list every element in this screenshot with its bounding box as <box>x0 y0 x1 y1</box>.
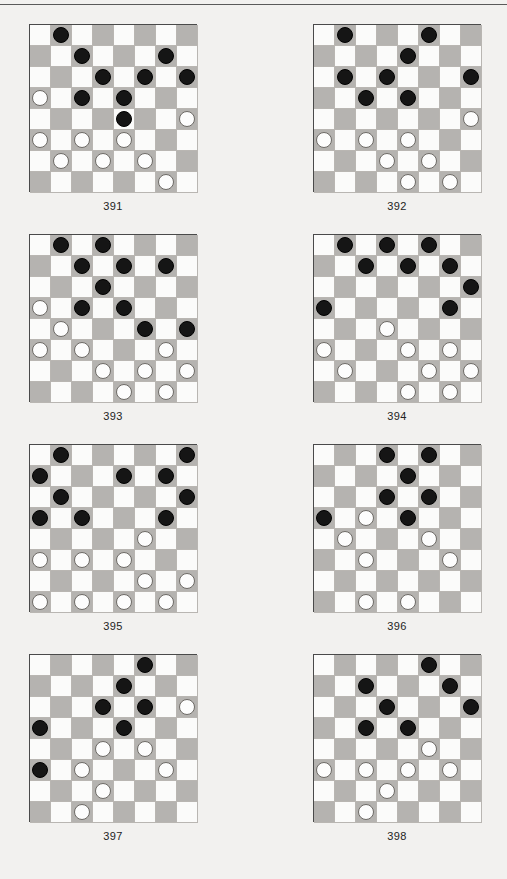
square-r7-c1[interactable] <box>335 172 356 193</box>
square-r3-c4[interactable] <box>114 298 135 319</box>
square-r6-c0[interactable] <box>314 151 335 172</box>
square-r6-c7[interactable] <box>177 571 198 592</box>
black-piece[interactable] <box>400 90 416 106</box>
black-piece[interactable] <box>116 111 132 127</box>
square-r5-c6[interactable] <box>156 130 177 151</box>
square-r5-c5[interactable] <box>419 760 440 781</box>
square-r1-c3[interactable] <box>93 256 114 277</box>
square-r7-c0[interactable] <box>30 802 51 823</box>
square-r3-c7[interactable] <box>177 298 198 319</box>
square-r7-c5[interactable] <box>419 802 440 823</box>
square-r4-c7[interactable] <box>177 319 198 340</box>
square-r4-c0[interactable] <box>314 319 335 340</box>
black-piece[interactable] <box>95 279 111 295</box>
square-r3-c1[interactable] <box>51 718 72 739</box>
square-r5-c7[interactable] <box>177 340 198 361</box>
square-r5-c0[interactable] <box>314 130 335 151</box>
square-r0-c2[interactable] <box>72 655 93 676</box>
square-r2-c4[interactable] <box>114 277 135 298</box>
square-r2-c0[interactable] <box>30 487 51 508</box>
square-r0-c4[interactable] <box>398 235 419 256</box>
square-r5-c0[interactable] <box>30 760 51 781</box>
square-r1-c3[interactable] <box>377 466 398 487</box>
white-piece[interactable] <box>400 594 416 610</box>
square-r2-c3[interactable] <box>93 277 114 298</box>
square-r6-c4[interactable] <box>114 361 135 382</box>
white-piece[interactable] <box>74 132 90 148</box>
black-piece[interactable] <box>74 258 90 274</box>
white-piece[interactable] <box>116 384 132 400</box>
square-r2-c4[interactable] <box>114 487 135 508</box>
square-r1-c6[interactable] <box>156 676 177 697</box>
square-r5-c4[interactable] <box>114 130 135 151</box>
square-r3-c1[interactable] <box>51 88 72 109</box>
square-r3-c3[interactable] <box>93 298 114 319</box>
white-piece[interactable] <box>74 762 90 778</box>
black-piece[interactable] <box>337 27 353 43</box>
square-r2-c1[interactable] <box>335 67 356 88</box>
black-piece[interactable] <box>74 48 90 64</box>
square-r1-c6[interactable] <box>440 676 461 697</box>
square-r0-c4[interactable] <box>114 25 135 46</box>
white-piece[interactable] <box>442 384 458 400</box>
square-r4-c4[interactable] <box>114 529 135 550</box>
black-piece[interactable] <box>463 69 479 85</box>
square-r1-c5[interactable] <box>135 466 156 487</box>
square-r1-c5[interactable] <box>419 466 440 487</box>
square-r5-c7[interactable] <box>461 130 482 151</box>
square-r1-c2[interactable] <box>356 46 377 67</box>
square-r0-c7[interactable] <box>177 655 198 676</box>
square-r5-c1[interactable] <box>51 550 72 571</box>
square-r0-c0[interactable] <box>30 445 51 466</box>
square-r1-c5[interactable] <box>419 256 440 277</box>
square-r7-c1[interactable] <box>335 802 356 823</box>
square-r4-c2[interactable] <box>356 109 377 130</box>
square-r7-c5[interactable] <box>135 382 156 403</box>
checkerboard-393[interactable] <box>29 234 197 402</box>
square-r0-c5[interactable] <box>135 445 156 466</box>
square-r5-c3[interactable] <box>93 550 114 571</box>
square-r3-c2[interactable] <box>356 508 377 529</box>
square-r1-c6[interactable] <box>440 466 461 487</box>
square-r0-c1[interactable] <box>335 445 356 466</box>
black-piece[interactable] <box>95 237 111 253</box>
square-r0-c4[interactable] <box>398 445 419 466</box>
square-r0-c5[interactable] <box>419 25 440 46</box>
square-r1-c1[interactable] <box>335 46 356 67</box>
black-piece[interactable] <box>137 657 153 673</box>
square-r2-c7[interactable] <box>177 277 198 298</box>
square-r3-c7[interactable] <box>177 88 198 109</box>
square-r2-c1[interactable] <box>335 277 356 298</box>
square-r5-c6[interactable] <box>440 550 461 571</box>
square-r7-c6[interactable] <box>440 382 461 403</box>
square-r2-c4[interactable] <box>398 487 419 508</box>
white-piece[interactable] <box>32 552 48 568</box>
square-r0-c5[interactable] <box>135 235 156 256</box>
square-r0-c3[interactable] <box>377 655 398 676</box>
white-piece[interactable] <box>74 804 90 820</box>
black-piece[interactable] <box>179 447 195 463</box>
square-r6-c7[interactable] <box>461 571 482 592</box>
square-r6-c2[interactable] <box>72 571 93 592</box>
square-r3-c0[interactable] <box>30 718 51 739</box>
black-piece[interactable] <box>179 489 195 505</box>
square-r7-c7[interactable] <box>461 382 482 403</box>
square-r6-c6[interactable] <box>440 781 461 802</box>
square-r7-c4[interactable] <box>398 592 419 613</box>
square-r1-c1[interactable] <box>51 256 72 277</box>
white-piece[interactable] <box>74 342 90 358</box>
black-piece[interactable] <box>116 678 132 694</box>
square-r5-c7[interactable] <box>461 550 482 571</box>
square-r2-c1[interactable] <box>335 697 356 718</box>
square-r0-c0[interactable] <box>314 445 335 466</box>
square-r5-c1[interactable] <box>51 340 72 361</box>
square-r7-c0[interactable] <box>30 382 51 403</box>
white-piece[interactable] <box>116 552 132 568</box>
square-r5-c6[interactable] <box>156 550 177 571</box>
square-r2-c6[interactable] <box>440 67 461 88</box>
square-r0-c3[interactable] <box>377 445 398 466</box>
square-r0-c7[interactable] <box>461 655 482 676</box>
square-r0-c5[interactable] <box>135 655 156 676</box>
checkerboard-391[interactable] <box>29 24 197 192</box>
square-r5-c2[interactable] <box>356 760 377 781</box>
